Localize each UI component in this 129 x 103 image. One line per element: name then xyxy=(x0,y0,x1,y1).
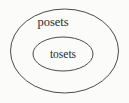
outer-set-label: posets xyxy=(37,15,68,29)
euler-diagram: posets tosets xyxy=(0,0,129,103)
inner-set-label: tosets xyxy=(50,48,77,60)
euler-diagram-canvas: posets tosets xyxy=(0,0,129,103)
